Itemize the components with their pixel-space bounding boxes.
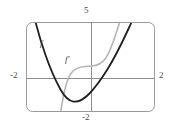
y-axis-bottom-tick-label: -2 bbox=[82, 113, 90, 122]
x-axis-left-tick-label: -2 bbox=[10, 71, 18, 80]
x-axis-right-tick-label: 2 bbox=[159, 71, 164, 80]
graph-figure: 5 -2 -2 2 f f′ bbox=[0, 0, 170, 128]
plot-canvas bbox=[0, 0, 170, 128]
y-axis-top-tick-label: 5 bbox=[84, 6, 89, 15]
plot-frame bbox=[27, 23, 155, 112]
f-prime-curve-label: f′ bbox=[65, 55, 69, 64]
f-curve-label: f bbox=[40, 39, 43, 48]
